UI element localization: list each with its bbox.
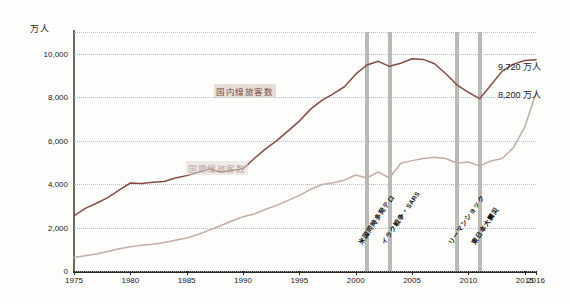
x-tick-mark <box>536 271 537 275</box>
x-tick-mark <box>356 271 357 275</box>
x-tick-label: 2010 <box>459 276 477 285</box>
x-tick-mark <box>74 271 75 275</box>
end-value-label: 8,200 万人 <box>498 88 541 101</box>
series-label-domestic: 国内線旅客数 <box>214 84 276 98</box>
end-value-label: 9,720 万人 <box>498 60 541 73</box>
x-tick-mark <box>412 271 413 275</box>
x-tick-label: 1980 <box>121 276 139 285</box>
plot-area <box>74 32 536 271</box>
y-tick-label: 8,000 <box>24 93 68 102</box>
y-tick-label: 0 <box>24 267 68 276</box>
x-tick-label: 1975 <box>65 276 83 285</box>
x-tick-label: 1990 <box>234 276 252 285</box>
y-tick-label: 4,000 <box>24 180 68 189</box>
y-tick-label: 2,000 <box>24 224 68 233</box>
series-label-intl: 国際線旅客数 <box>186 161 248 175</box>
series-lines <box>74 32 536 271</box>
y-axis-unit-label: 万人 <box>30 22 49 35</box>
x-tick-label: 1985 <box>178 276 196 285</box>
x-tick-label: 2016 <box>527 276 545 285</box>
x-tick-label: 2005 <box>403 276 421 285</box>
gridline <box>74 271 536 272</box>
x-tick-mark <box>187 271 188 275</box>
y-tick-label: 10,000 <box>24 50 68 59</box>
x-tick-mark <box>525 271 526 275</box>
x-tick-mark <box>130 271 131 275</box>
x-tick-mark <box>243 271 244 275</box>
x-tick-label: 1995 <box>290 276 308 285</box>
x-tick-label: 2000 <box>347 276 365 285</box>
x-tick-mark <box>468 271 469 275</box>
y-tick-label: 6,000 <box>24 137 68 146</box>
x-tick-mark <box>299 271 300 275</box>
series-line <box>74 93 536 258</box>
chart-container: 万人 02,0004,0006,0008,00010,000 197519801… <box>0 0 570 306</box>
